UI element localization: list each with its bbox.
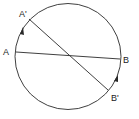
label-b-prime: B' [111,93,119,103]
circle [15,4,121,110]
label-b: B [123,55,129,65]
label-a-prime: A' [19,9,27,19]
arrow-b-to-b-prime-icon [114,75,118,82]
label-a: A [3,47,9,57]
chord-a-prime-b-prime [29,19,108,90]
chord-ab [16,52,120,59]
rotation-diagram: A B A' B' [0,0,139,119]
